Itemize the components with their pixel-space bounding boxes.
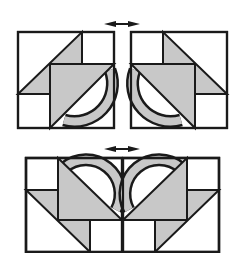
mirror-arrow-top bbox=[104, 21, 140, 27]
block-right bbox=[116, 32, 227, 136]
mirror-arrow-bottom bbox=[104, 146, 140, 152]
quilt-diagram bbox=[0, 0, 236, 253]
block-left bbox=[18, 32, 129, 136]
joined-blocks bbox=[26, 158, 219, 252]
